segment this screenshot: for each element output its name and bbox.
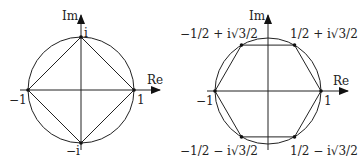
point-label-negi: −i bbox=[66, 144, 80, 158]
re-axis-label: Re bbox=[333, 74, 349, 88]
point-label-neg1: −1 bbox=[196, 94, 214, 108]
right-figure: Im Re 1 1/2 + i√3/2 −1/2 + i√3/2 −1 −1/2… bbox=[180, 9, 358, 158]
point-label-1-2-minus: 1/2 − i√3/2 bbox=[290, 144, 358, 158]
point-label-1: 1 bbox=[324, 94, 332, 108]
point-label-neg1-2-minus: −1/2 − i√3/2 bbox=[180, 144, 258, 158]
point-label-1: 1 bbox=[137, 93, 145, 107]
left-figure: Im Re i 1 −1 −i bbox=[9, 9, 163, 158]
point-label-neg1: −1 bbox=[9, 93, 27, 107]
point-label-i: i bbox=[84, 26, 88, 40]
im-axis-label: Im bbox=[249, 9, 266, 23]
point-label-1-2-plus: 1/2 + i√3/2 bbox=[290, 27, 358, 41]
point-label-neg1-2-plus: −1/2 + i√3/2 bbox=[180, 27, 258, 41]
re-axis-label: Re bbox=[147, 73, 163, 87]
roots-of-unity-diagram: Im Re i 1 −1 −i Im Re 1 1/2 + i√3/2 −1/2… bbox=[0, 0, 364, 166]
im-axis-label: Im bbox=[62, 9, 79, 23]
